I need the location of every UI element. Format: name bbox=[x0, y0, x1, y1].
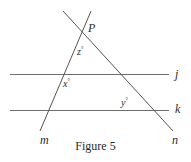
transversal-line-m bbox=[40, 11, 91, 131]
line-label-j: j bbox=[175, 68, 178, 80]
figure-5-geometry-diagram: P j k m n z° x° y° Figure 5 bbox=[0, 0, 191, 162]
figure-caption: Figure 5 bbox=[0, 140, 191, 153]
degree-symbol-y: ° bbox=[125, 97, 127, 103]
line-label-k: k bbox=[175, 103, 180, 115]
transversal-line-n bbox=[63, 11, 173, 131]
geometry-line-canvas bbox=[0, 0, 191, 162]
angle-label-y: y° bbox=[121, 97, 128, 108]
angle-label-z: z° bbox=[77, 46, 83, 57]
degree-symbol-z: ° bbox=[81, 46, 83, 52]
angle-label-x: x° bbox=[63, 78, 70, 89]
degree-symbol-x: ° bbox=[67, 78, 69, 84]
point-label-p: P bbox=[88, 22, 95, 34]
